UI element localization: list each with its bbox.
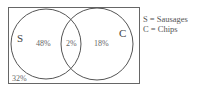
region-outside-value: 32% xyxy=(12,75,27,83)
legend-item-sausages: S = Sausages xyxy=(143,14,188,24)
set-label-s: S xyxy=(17,33,23,44)
region-intersection-value: 2% xyxy=(66,40,77,48)
region-only-c-value: 18% xyxy=(94,40,109,48)
legend-item-chips: C = Chips xyxy=(143,24,188,34)
legend: S = Sausages C = Chips xyxy=(143,14,188,34)
region-only-s-value: 48% xyxy=(36,40,51,48)
set-label-c: C xyxy=(119,28,126,39)
